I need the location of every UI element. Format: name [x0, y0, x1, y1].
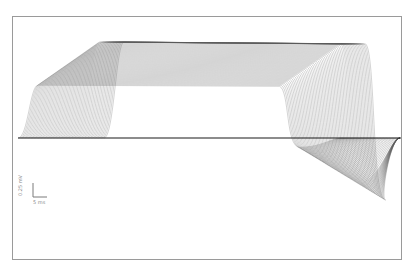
- scale-bar: [33, 183, 47, 197]
- trace-lines: [18, 42, 400, 200]
- trace-line: [68, 50, 392, 177]
- waterfall-traces-plot: [0, 0, 415, 271]
- scale-bar-vertical-label: 0.25 mV: [17, 175, 23, 196]
- scale-bar-horizontal-label: 5 ms: [33, 199, 45, 205]
